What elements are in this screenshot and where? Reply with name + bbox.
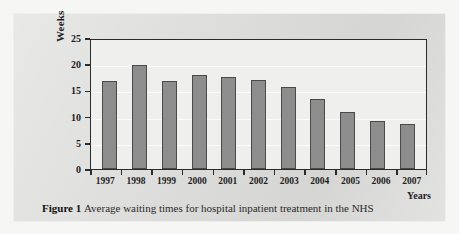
bar: [251, 80, 266, 169]
x-axis-tick: [304, 170, 306, 175]
x-axis-tick: [121, 170, 123, 175]
y-axis-tick: [85, 91, 90, 93]
x-axis-tick-label: 1998: [119, 176, 153, 186]
bar-series: [91, 40, 426, 169]
figure-caption: Figure 1 Average waiting times for hospi…: [42, 202, 434, 214]
bar: [132, 65, 147, 169]
x-axis-tick-label: 2001: [211, 176, 245, 186]
y-axis-tick: [85, 38, 90, 40]
figure-number: Figure 1: [42, 202, 81, 214]
bar: [102, 81, 117, 169]
figure-caption-text: Average waiting times for hospital inpat…: [84, 202, 374, 214]
x-axis-tick-label: 1999: [150, 176, 184, 186]
x-axis-tick: [151, 170, 153, 175]
bar: [400, 124, 415, 169]
bar: [340, 112, 355, 169]
y-axis-tick-label: 25: [55, 33, 81, 44]
x-axis-tick: [213, 170, 215, 175]
scanned-page: Weeks 0510152025 19971998199920002001200…: [0, 0, 459, 234]
bar-chart: Weeks 0510152025 19971998199920002001200…: [14, 14, 445, 174]
x-axis-tick: [274, 170, 276, 175]
y-axis-tick-label: 10: [55, 112, 81, 123]
x-axis-tick-label: 1997: [88, 176, 122, 186]
x-axis-tick: [90, 170, 92, 175]
x-axis-tick: [396, 170, 398, 175]
x-axis-tick: [182, 170, 184, 175]
bar: [281, 87, 296, 169]
plot-area: [90, 39, 427, 170]
y-axis-tick: [85, 117, 90, 119]
bar: [370, 121, 385, 170]
y-axis-tick: [85, 143, 90, 145]
x-axis-tick-label: 2005: [333, 176, 367, 186]
y-axis-tick-label: 20: [55, 59, 81, 70]
caption-divider: [36, 200, 428, 201]
x-axis-tick: [366, 170, 368, 175]
bar: [221, 77, 236, 169]
bar: [192, 75, 207, 169]
x-axis-tick: [335, 170, 337, 175]
x-axis-tick-label: 2006: [364, 176, 398, 186]
y-axis-tick-label: 0: [55, 164, 81, 175]
figure-card: Weeks 0510152025 19971998199920002001200…: [14, 14, 445, 221]
x-axis-tick-label: 2000: [180, 176, 214, 186]
y-axis-tick: [85, 64, 90, 66]
x-axis-tick-label: 2004: [303, 176, 337, 186]
x-axis-tick: [426, 170, 428, 175]
bar: [162, 81, 177, 169]
y-axis-tick-label: 15: [55, 85, 81, 96]
bar: [310, 99, 325, 169]
x-axis-tick: [243, 170, 245, 175]
x-axis-tick-label: 2002: [242, 176, 276, 186]
y-axis-tick-label: 5: [55, 138, 81, 149]
x-axis-tick-label: 2003: [272, 176, 306, 186]
x-axis-tick-label: 2007: [395, 176, 429, 186]
